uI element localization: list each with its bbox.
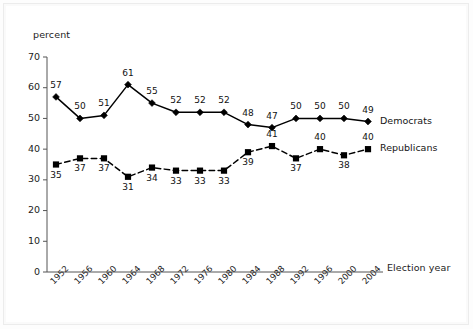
line-chart-canvas — [0, 0, 473, 329]
series-lines — [53, 81, 372, 180]
chart-page: percent Election year 010203040506070195… — [0, 0, 473, 329]
axis-lines — [43, 57, 383, 272]
